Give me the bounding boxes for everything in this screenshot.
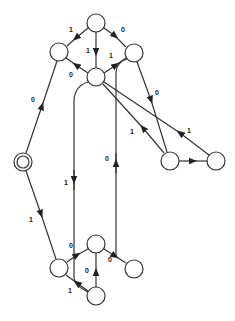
node-top[interactable] [87, 14, 105, 32]
node-lower-right[interactable] [125, 260, 143, 278]
nodes [14, 14, 225, 305]
state-diagram: 0 1 1 0 1 0 1 0 1 1 1 0 0 0 0 1 [0, 0, 235, 321]
node-center[interactable] [87, 68, 105, 86]
edge-start-lower-left [26, 171, 56, 259]
edge-lower-left-lower-center [67, 249, 88, 262]
node-upper-left[interactable] [50, 43, 68, 61]
label-top-upper-left: 1 [69, 26, 73, 33]
label-top-center: 1 [86, 47, 90, 54]
label-center-upper-left: 0 [69, 71, 73, 78]
node-mid-right-a[interactable] [161, 152, 179, 170]
node-start-inner [17, 156, 29, 168]
label-center-bottom: 1 [64, 179, 68, 186]
node-bottom[interactable] [87, 287, 105, 305]
label-mid-right-b-center: 1 [187, 127, 191, 134]
node-lower-center[interactable] [87, 235, 105, 253]
node-lower-left[interactable] [50, 259, 68, 277]
label-center-upper-right: 1 [109, 52, 113, 59]
edge-start-upper-left [26, 61, 57, 153]
label-upper-right-mid-right-a: 0 [155, 89, 159, 96]
label-bottom-lower-left: 1 [68, 287, 72, 294]
label-bottom-lower-center: 0 [85, 267, 89, 274]
label-lower-center-lower-right: 0 [108, 256, 112, 263]
label-start-lower-left: 1 [29, 216, 33, 223]
label-top-upper-right: 0 [121, 26, 125, 33]
label-lower-left-lower-center: 0 [69, 242, 73, 249]
edge-center-bottom [74, 82, 88, 292]
label-lower-right-upper-right: 0 [105, 155, 109, 162]
node-mid-right-b[interactable] [207, 152, 225, 170]
label-start-upper-left: 0 [31, 96, 35, 103]
label-mid-right-a-center: 1 [130, 128, 134, 135]
edges [26, 28, 209, 292]
node-upper-right[interactable] [125, 44, 143, 62]
edge-lower-right-upper-right [116, 59, 127, 256]
